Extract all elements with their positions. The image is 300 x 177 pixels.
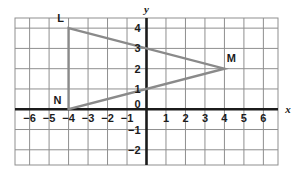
vertex-label-l: L [57,12,64,24]
y-tick-label: 1 [134,83,140,95]
x-tick-label: −4 [62,112,75,124]
vertex-label-m: M [227,52,236,64]
x-tick-label: −1 [121,112,134,124]
x-tick-label: −3 [82,112,95,124]
coordinate-grid-svg: −6−5−4−3−2−11234564321−1−20 LMN xy [0,0,300,177]
origin-label: 0 [134,98,140,110]
x-tick-label: 5 [241,112,247,124]
y-tick-label: 4 [134,22,141,34]
x-tick-label: 3 [202,112,208,124]
x-tick-label: −2 [101,112,114,124]
x-axis-name: x [284,103,291,115]
y-tick-label: −1 [128,124,141,136]
x-tick-label: 6 [260,112,266,124]
x-tick-label: 2 [182,112,188,124]
x-tick-label: −5 [43,112,56,124]
y-tick-label: 2 [134,63,140,75]
y-tick-label: −2 [128,144,141,156]
y-axis-name: y [142,3,149,15]
y-tick-label: 3 [134,42,140,54]
x-tick-label: 4 [221,112,228,124]
vertex-label-n: N [54,94,62,106]
x-tick-label: 1 [163,112,169,124]
x-tick-label: −6 [23,112,36,124]
coordinate-plane-figure: −6−5−4−3−2−11234564321−1−20 LMN xy [0,0,300,177]
